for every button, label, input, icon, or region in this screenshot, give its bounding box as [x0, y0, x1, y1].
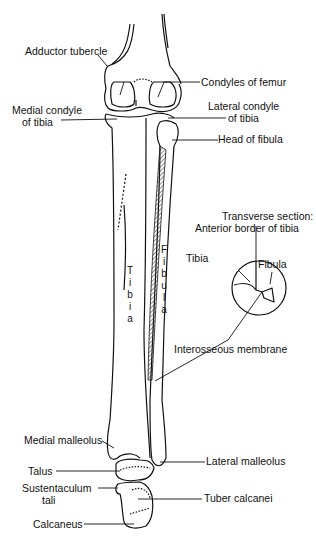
- label-sustentaculum-line1: Sustentaculum: [22, 482, 91, 494]
- label-condyles-of-femur: Condyles of femur: [201, 76, 286, 88]
- bone-text-tibia: T i b i a: [126, 265, 134, 325]
- label-lateral-condyle-line1: Lateral condyle: [208, 100, 279, 112]
- anatomy-diagram: Adductor tubercle Condyles of femur Medi…: [0, 0, 316, 540]
- label-adductor-tubercle: Adductor tubercle: [25, 45, 107, 57]
- tibia-outline: [105, 114, 140, 459]
- femur-medial-edge: [105, 24, 134, 88]
- label-medial-malleolus: Medial malleolus: [24, 434, 102, 446]
- label-section-tibia: Tibia: [186, 252, 208, 264]
- label-lateral-malleolus: Lateral malleolus: [206, 455, 285, 467]
- label-medial-condyle-line2: of tibia: [22, 116, 53, 128]
- label-interosseous-membrane: Interosseous membrane: [174, 343, 287, 355]
- label-section-fibula: Fibula: [258, 258, 287, 270]
- label-anterior-border-of-tibia: Anterior border of tibia: [195, 222, 299, 234]
- label-tuber-calcanei: Tuber calcanei: [204, 492, 272, 504]
- bone-text-fibula: F i b u l a: [160, 244, 168, 316]
- label-medial-condyle-line1: Medial condyle: [12, 104, 82, 116]
- label-head-of-fibula: Head of fibula: [218, 133, 283, 145]
- label-sustentaculum-line2: tali: [42, 494, 55, 506]
- label-talus: Talus: [28, 465, 53, 477]
- label-lateral-condyle-line2: of tibia: [228, 112, 259, 124]
- label-calcaneus: Calcaneus: [33, 518, 83, 530]
- label-transverse-section: Transverse section:: [222, 210, 313, 222]
